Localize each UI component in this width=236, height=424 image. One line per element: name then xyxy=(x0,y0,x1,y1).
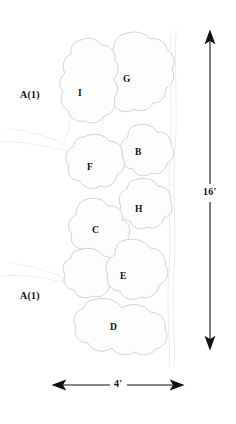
canopy-label-C: C xyxy=(92,226,99,236)
area-label-top: A(1) xyxy=(20,90,40,100)
canopy-shape-H xyxy=(119,178,172,229)
tree-canopy-plan-figure: A(1) A(1) I G B F H C E D 16' 4' xyxy=(0,0,236,424)
canopy-label-E: E xyxy=(120,272,127,282)
canopy-shape-I xyxy=(60,38,118,123)
canopy-shape-D xyxy=(74,298,167,354)
canopy-label-G: G xyxy=(123,75,131,85)
canopy-label-I: I xyxy=(78,89,82,99)
canopy-shape-B xyxy=(121,124,174,176)
canopy-plan-drawing xyxy=(0,0,236,424)
vertical-dimension-label: 16' xyxy=(202,187,217,197)
canopy-outlines xyxy=(60,32,174,355)
canopy-label-F: F xyxy=(87,163,93,173)
canopy-shape-F xyxy=(66,134,125,188)
horizontal-dimension-label: 4' xyxy=(113,379,123,389)
canopy-label-D: D xyxy=(110,323,117,333)
canopy-label-B: B xyxy=(135,148,142,158)
area-label-bottom: A(1) xyxy=(20,291,40,301)
canopy-label-H: H xyxy=(135,205,143,215)
